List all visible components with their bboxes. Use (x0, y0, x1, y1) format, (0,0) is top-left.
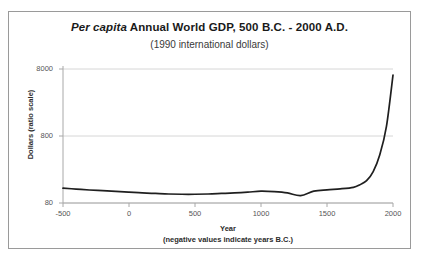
y-axis-ticks (59, 69, 63, 203)
xtick-label-0: 0 (109, 209, 149, 218)
axes (63, 66, 393, 203)
xtick-label-500: 500 (175, 209, 215, 218)
x-axis-ticks (63, 203, 393, 207)
ytick-label-80: 80 (19, 198, 53, 207)
gdp-series-line (63, 75, 393, 196)
x-axis-title: Year (negative values indicate years B.C… (63, 223, 393, 245)
gridlines (63, 69, 393, 203)
xtick-label-2000: 2000 (373, 209, 413, 218)
chart-figure-frame: Per capita Annual World GDP, 500 B.C. - … (8, 11, 411, 249)
x-axis-title-note: (negative values indicate years B.C.) (63, 234, 393, 245)
xtick-label--500: -500 (43, 209, 83, 218)
ytick-label-800: 800 (19, 131, 53, 140)
xtick-label-1000: 1000 (241, 209, 281, 218)
ytick-label-8000: 8000 (19, 64, 53, 73)
x-axis-title-main: Year (63, 223, 393, 234)
xtick-label-1500: 1500 (307, 209, 347, 218)
